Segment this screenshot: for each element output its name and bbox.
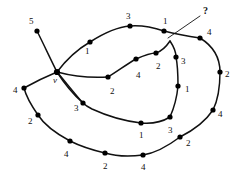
graph-node <box>138 120 143 125</box>
graph-node <box>140 152 145 157</box>
question-mark-annotation: ? <box>203 6 208 16</box>
graph-node <box>133 56 138 61</box>
node-label: 1 <box>185 85 190 94</box>
graph-figure: 5 v 1 3 1 4 2 4 2 4 2 4 2 4 3 1 3 1 3 2 … <box>0 0 238 175</box>
node-label: 3 <box>168 126 173 135</box>
edge-inner-lower <box>57 72 170 123</box>
node-label: 3 <box>181 57 186 66</box>
node-label: 2 <box>110 87 115 96</box>
graph-node <box>177 134 182 139</box>
graph-node <box>173 54 178 59</box>
node-label: 1 <box>139 131 144 140</box>
node-label: 2 <box>225 70 230 79</box>
node-label: 4 <box>218 110 223 119</box>
edge-top-outer <box>57 26 164 72</box>
node-group <box>21 23 222 157</box>
node-label: 4 <box>64 150 69 159</box>
graph-node <box>102 150 107 155</box>
graph-node <box>153 50 158 55</box>
node-label: 2 <box>103 162 108 171</box>
node-label: 3 <box>126 12 131 21</box>
node-label: 5 <box>29 17 34 26</box>
graph-node <box>127 23 132 28</box>
node-label: 2 <box>186 139 191 148</box>
graph-node <box>105 74 110 79</box>
graph-canvas <box>0 0 238 175</box>
graph-node <box>34 28 39 33</box>
node-label: 4 <box>136 71 141 80</box>
node-label: 2 <box>28 117 33 126</box>
edge-group <box>24 16 220 156</box>
edge-center-to-m2b <box>57 72 108 77</box>
node-label: 1 <box>163 17 168 26</box>
node-label: 1 <box>85 47 90 56</box>
node-label: 2 <box>156 62 161 71</box>
node-label: 4 <box>141 163 146 172</box>
node-label: 4 <box>207 28 212 37</box>
graph-node <box>175 83 180 88</box>
graph-node <box>80 100 85 105</box>
graph-node <box>167 114 172 119</box>
graph-node <box>87 39 92 44</box>
graph-node <box>210 107 215 112</box>
node-label: 4 <box>13 86 18 95</box>
graph-node <box>161 28 166 33</box>
graph-node <box>67 138 72 143</box>
edge-five-spoke <box>37 31 57 72</box>
graph-node <box>35 112 40 117</box>
graph-node <box>197 35 202 40</box>
node-label: 3 <box>74 104 79 113</box>
graph-node <box>217 69 222 74</box>
edge-inner-right <box>170 41 178 117</box>
graph-node <box>21 85 26 90</box>
center-vertex-label: v <box>53 76 57 85</box>
